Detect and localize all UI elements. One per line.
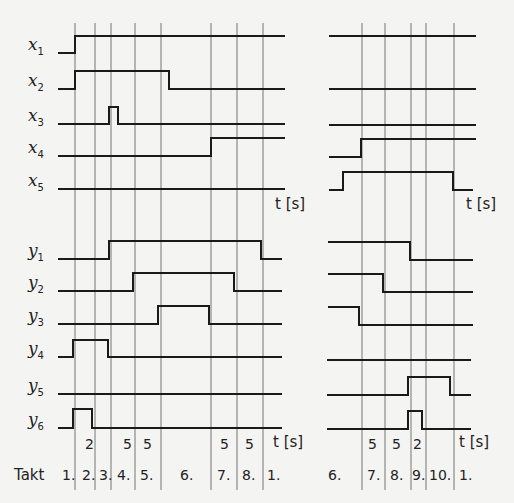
signal-x5-right: [329, 172, 473, 190]
signal-label-y5: y5: [27, 375, 44, 398]
signal-y1-left: [58, 241, 282, 259]
signal-label-y6: y6: [27, 409, 44, 432]
signal-label-x1: x1: [28, 34, 44, 57]
takt-number: 5.: [140, 467, 153, 483]
takt-number: 1.: [459, 467, 472, 483]
duration-value: 5: [143, 436, 152, 452]
takt-row: Takt 1.2.3.4.5.6.7.8.1.6.7.8.9.10.1.: [13, 466, 472, 484]
takt-number: 9.: [412, 467, 425, 483]
duration-value: 5: [368, 436, 377, 452]
signal-label-y2: y2: [27, 272, 44, 295]
takt-number: 10.: [429, 467, 451, 483]
duration-value: 2: [413, 436, 422, 452]
signal-label-x4: x4: [28, 137, 44, 160]
signal-x3-left: [58, 107, 285, 124]
duration-row: 25555552: [85, 436, 422, 452]
takt-label: Takt: [13, 466, 45, 484]
signal-label-x5: x5: [28, 170, 44, 193]
takt-number: 8.: [242, 467, 255, 483]
signal-x2-left: [58, 71, 285, 89]
signal-x1-left: [58, 36, 285, 53]
takt-grid-lines: [75, 23, 454, 490]
signal-label-y3: y3: [27, 305, 44, 328]
takt-number: 3.: [99, 467, 112, 483]
timing-diagram: x1x2x3x4x5y1y2y3y4y5y6 t [s]t [s]t [s]t …: [0, 0, 514, 503]
signal-y4-left: [58, 340, 282, 357]
signal-traces: [58, 36, 476, 429]
signal-y2-left: [58, 273, 282, 291]
takt-number: 7.: [367, 467, 380, 483]
duration-value: 5: [245, 436, 254, 452]
time-unit-label: t [s]: [459, 433, 489, 451]
time-axis-labels: t [s]t [s]t [s]t [s]: [273, 195, 496, 451]
signal-y1-right: [328, 242, 473, 260]
takt-number: 6.: [328, 467, 341, 483]
takt-number: 1.: [62, 467, 75, 483]
signal-y3-right: [328, 307, 473, 325]
signal-y5-right: [327, 377, 471, 395]
takt-number: 7.: [217, 467, 230, 483]
signal-label-y1: y1: [27, 240, 44, 263]
signal-y6-right: [327, 411, 471, 429]
takt-number: 6.: [180, 467, 193, 483]
signal-y6-left: [58, 409, 282, 428]
signal-label-x3: x3: [28, 105, 44, 128]
takt-number: 2.: [82, 467, 95, 483]
time-unit-label: t [s]: [466, 195, 496, 213]
signal-y3-left: [58, 306, 282, 324]
duration-value: 2: [85, 436, 94, 452]
signal-labels: x1x2x3x4x5y1y2y3y4y5y6: [27, 34, 44, 432]
time-unit-label: t [s]: [273, 433, 303, 451]
takt-number: 1.: [267, 467, 280, 483]
signal-label-y4: y4: [27, 338, 44, 361]
duration-value: 5: [220, 436, 229, 452]
takt-number: 4.: [117, 467, 130, 483]
duration-value: 5: [392, 436, 401, 452]
signal-label-x2: x2: [28, 70, 44, 93]
signal-y2-right: [328, 274, 473, 292]
time-unit-label: t [s]: [275, 195, 305, 213]
signal-x4-left: [58, 138, 285, 156]
takt-number: 8.: [390, 467, 403, 483]
duration-value: 5: [123, 436, 132, 452]
